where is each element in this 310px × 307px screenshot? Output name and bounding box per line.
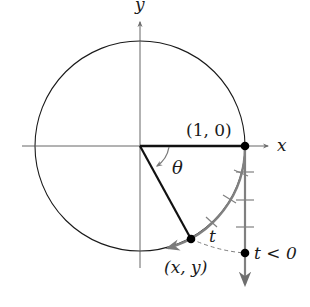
dashed-connector xyxy=(191,239,245,253)
arc-length-label: t xyxy=(209,226,216,246)
number-line-point xyxy=(241,249,250,258)
unit-circle-diagram: y x (1, 0) θ t (x, y) t < 0 xyxy=(0,0,310,307)
terminal-point-label: (x, y) xyxy=(164,257,207,277)
number-line-point-label: t < 0 xyxy=(254,243,297,263)
terminal-point xyxy=(187,235,196,244)
start-point xyxy=(241,142,250,151)
x-axis-label: x xyxy=(277,135,287,155)
y-axis-label: y xyxy=(134,0,145,14)
angle-label: θ xyxy=(172,157,183,178)
terminal-radius xyxy=(140,146,191,239)
angle-theta-arc xyxy=(157,147,169,166)
start-point-label: (1, 0) xyxy=(186,120,232,140)
